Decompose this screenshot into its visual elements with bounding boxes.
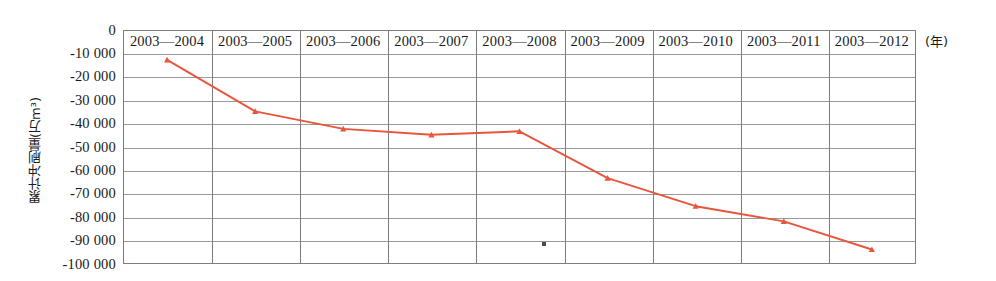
y-tick-label: -20 000 bbox=[70, 68, 116, 85]
horizontal-gridline bbox=[124, 241, 915, 242]
vertical-gridline bbox=[653, 31, 654, 263]
vertical-gridline bbox=[741, 31, 742, 263]
vertical-gridline bbox=[388, 31, 389, 263]
x-axis-category-label: 2003—2010 bbox=[652, 30, 740, 54]
horizontal-gridline bbox=[124, 218, 915, 219]
horizontal-gridline bbox=[124, 148, 915, 149]
plot-area bbox=[123, 30, 916, 264]
vertical-gridline bbox=[300, 31, 301, 263]
horizontal-gridline bbox=[124, 54, 915, 55]
y-tick-label: -60 000 bbox=[70, 161, 116, 178]
x-axis-category-label: 2003—2004 bbox=[123, 30, 211, 54]
horizontal-gridline bbox=[124, 101, 915, 102]
y-tick-label: -40 000 bbox=[70, 115, 116, 132]
vertical-gridline bbox=[476, 31, 477, 263]
accumulated-scour-line-chart: 累计冲刷量(万m³) 0-10 000-20 000-30 000-40 000… bbox=[0, 0, 996, 281]
x-axis-category-band: 2003—20042003—20052003—20062003—20072003… bbox=[123, 30, 916, 54]
y-tick-label: -90 000 bbox=[70, 232, 116, 249]
x-axis-category-label: 2003—2008 bbox=[475, 30, 563, 54]
y-tick-label: 0 bbox=[109, 21, 116, 38]
vertical-gridline bbox=[565, 31, 566, 263]
vertical-gridline bbox=[829, 31, 830, 263]
horizontal-gridline bbox=[124, 194, 915, 195]
y-tick-label: -100 000 bbox=[62, 255, 116, 272]
horizontal-gridline bbox=[124, 77, 915, 78]
vertical-gridline bbox=[212, 31, 213, 263]
x-axis-category-label: 2003—2005 bbox=[211, 30, 299, 54]
y-tick-label: -10 000 bbox=[70, 44, 116, 61]
y-tick-label: -50 000 bbox=[70, 138, 116, 155]
x-axis-category-label: 2003—2006 bbox=[299, 30, 387, 54]
y-tick-label: -80 000 bbox=[70, 208, 116, 225]
x-axis-category-label: 2003—2007 bbox=[387, 30, 475, 54]
x-axis-unit-label: (年) bbox=[925, 31, 948, 50]
scan-speck-artifact bbox=[542, 242, 546, 246]
x-axis-category-label: 2003—2011 bbox=[740, 30, 828, 54]
x-axis-category-label: 2003—2009 bbox=[564, 30, 652, 54]
x-axis-category-label: 2003—2012 bbox=[828, 30, 916, 54]
y-tick-label: -70 000 bbox=[70, 185, 116, 202]
horizontal-gridline bbox=[124, 124, 915, 125]
y-tick-label: -30 000 bbox=[70, 91, 116, 108]
y-axis-tick-labels: 0-10 000-20 000-30 000-40 000-50 000-60 … bbox=[48, 0, 120, 281]
y-axis-title: 累计冲刷量(万m³) bbox=[24, 60, 46, 240]
horizontal-gridline bbox=[124, 171, 915, 172]
